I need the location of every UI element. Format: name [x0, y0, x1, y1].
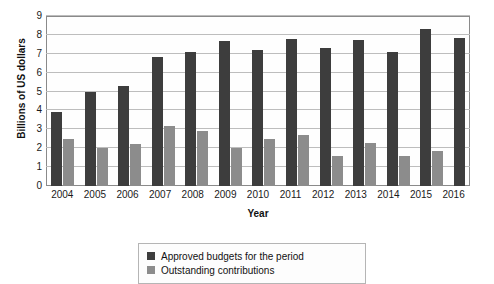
- bar: [286, 39, 297, 186]
- legend-swatch-icon: [147, 252, 155, 260]
- bar: [420, 29, 431, 186]
- bar: [252, 50, 263, 186]
- bar: [185, 52, 196, 186]
- plot-area: [46, 16, 470, 186]
- bar: [454, 38, 465, 186]
- bar: [118, 86, 129, 186]
- bar: [219, 41, 230, 186]
- bar-group: [353, 16, 376, 186]
- bar-group: [252, 16, 275, 186]
- bar-group: [454, 16, 465, 186]
- y-axis-tick-labels: 0123456789: [20, 16, 42, 186]
- legend-item-label: Outstanding contributions: [161, 265, 274, 276]
- bar-group: [420, 16, 443, 186]
- bar: [197, 131, 208, 186]
- x-axis-tick-label: 2004: [47, 189, 77, 200]
- x-axis-tick-labels: 2004200520062007200820092010201120122013…: [46, 189, 470, 200]
- legend-item: Approved budgets for the period: [147, 249, 357, 263]
- bar-group: [387, 16, 410, 186]
- bar: [152, 57, 163, 186]
- bar-group: [51, 16, 74, 186]
- bar: [264, 139, 275, 186]
- x-axis-tick-label: 2007: [145, 189, 175, 200]
- bar: [97, 148, 108, 186]
- legend-swatch-icon: [147, 266, 155, 274]
- bar: [63, 139, 74, 186]
- legend-item: Outstanding contributions: [147, 263, 357, 277]
- x-axis-tick-label: 2016: [439, 189, 469, 200]
- x-axis-title: Year: [46, 208, 470, 219]
- bar-group: [219, 16, 242, 186]
- bar-group: [85, 16, 108, 186]
- bar-group: [286, 16, 309, 186]
- x-axis-tick-label: 2005: [80, 189, 110, 200]
- x-axis-tick-label: 2014: [373, 189, 403, 200]
- legend-item-label: Approved budgets for the period: [161, 251, 304, 262]
- x-axis-tick-label: 2013: [341, 189, 371, 200]
- bar: [298, 135, 309, 186]
- bar: [164, 126, 175, 186]
- bar: [332, 156, 343, 186]
- x-axis-tick-label: 2006: [113, 189, 143, 200]
- bar: [399, 156, 410, 186]
- bar: [353, 40, 364, 186]
- bar: [320, 48, 331, 186]
- bar: [130, 144, 141, 186]
- chart-legend: Approved budgets for the periodOutstandi…: [138, 243, 366, 284]
- x-axis-tick-label: 2009: [210, 189, 240, 200]
- x-axis-tick-label: 2010: [243, 189, 273, 200]
- x-axis-tick-label: 2008: [178, 189, 208, 200]
- bar-group: [320, 16, 343, 186]
- bar-group: [152, 16, 175, 186]
- bar: [387, 52, 398, 186]
- bar: [85, 92, 96, 186]
- bar-group: [118, 16, 141, 186]
- bar: [365, 143, 376, 186]
- bar: [51, 112, 62, 186]
- bar-group: [185, 16, 208, 186]
- bar: [231, 148, 242, 186]
- x-axis-tick-label: 2012: [308, 189, 338, 200]
- x-axis-tick-label: 2011: [276, 189, 306, 200]
- bar-groups: [46, 16, 470, 186]
- bar: [432, 151, 443, 186]
- x-axis-tick-label: 2015: [406, 189, 436, 200]
